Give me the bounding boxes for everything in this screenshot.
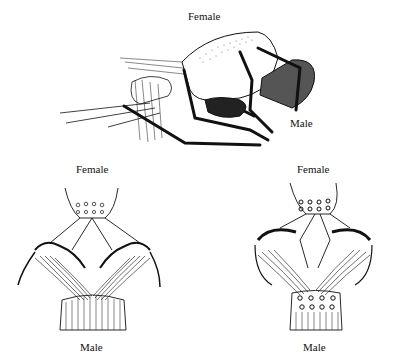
bottom-right-male-label: Male: [303, 341, 326, 353]
mating-illustration: [0, 0, 396, 359]
bottom-left-male-label: Male: [80, 341, 103, 353]
bottom-right-female-label: Female: [297, 163, 329, 175]
top-male-label: Male: [290, 117, 313, 129]
bottom-right-genitalia-drawing: [255, 183, 372, 330]
top-mating-pair-drawing: [60, 32, 315, 145]
bottom-left-genitalia-drawing: [18, 188, 160, 330]
top-female-label: Female: [188, 10, 220, 22]
bottom-left-female-label: Female: [76, 163, 108, 175]
